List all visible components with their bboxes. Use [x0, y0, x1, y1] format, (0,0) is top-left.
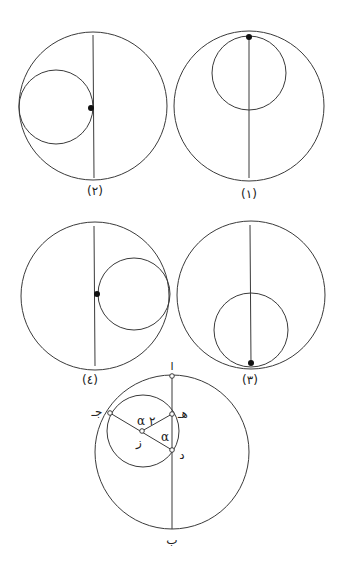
point-d [170, 448, 175, 453]
point-b-label: ب [166, 534, 177, 546]
figure-3-label: (٣) [242, 374, 258, 386]
contact-point [248, 360, 254, 366]
point-j [108, 411, 113, 416]
point-a-label: ا [170, 361, 173, 372]
contact-point [246, 34, 252, 40]
point-z [140, 429, 145, 434]
angle-alpha-label: α [161, 431, 169, 443]
diagram-canvas [0, 0, 342, 567]
diameter-line [250, 225, 251, 364]
point-j-label: جـ [92, 406, 103, 418]
inner-circle [19, 70, 93, 144]
contact-point [88, 105, 94, 111]
point-z-label: ز [136, 436, 142, 448]
figure-3 [177, 221, 325, 369]
point-h-label: هـ [178, 408, 188, 420]
figure-1-label: (١) [241, 188, 257, 200]
figure-2 [19, 32, 167, 180]
point-h [170, 412, 175, 417]
point-a [170, 374, 175, 379]
point-d-label: د [179, 449, 184, 461]
angle-2alpha-label: α ٢ [137, 415, 155, 427]
figure-4-label: (٤) [82, 374, 98, 386]
figure-2-label: (٢) [87, 185, 103, 197]
figure-4 [21, 222, 170, 370]
figure-1 [174, 31, 324, 181]
contact-point [94, 291, 100, 297]
construction-figure [95, 374, 249, 529]
inner-circle [98, 258, 170, 330]
